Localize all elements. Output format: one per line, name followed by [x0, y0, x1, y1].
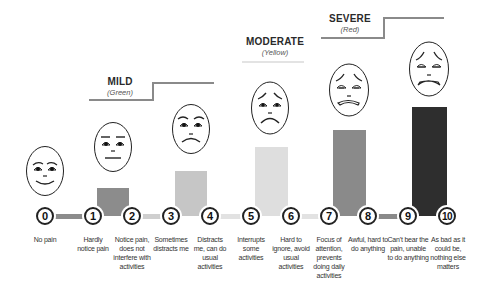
- mild-step-line-high: [152, 82, 214, 84]
- scale-point-9: 9: [399, 207, 417, 225]
- connector-8-9: [378, 214, 400, 219]
- scale-desc-8: Awful, hard to do anything: [348, 235, 388, 253]
- scale-point-7: 7: [320, 207, 338, 225]
- category-mild-subtitle: (Green): [100, 88, 140, 97]
- bar-severe-1: [333, 130, 366, 216]
- scale-desc-0: No pain: [23, 235, 67, 244]
- category-moderate-subtitle: (Yellow): [255, 48, 295, 57]
- mild-step-riser: [152, 82, 154, 101]
- severe-step-riser: [383, 17, 385, 39]
- mild-step-line-low: [89, 99, 154, 101]
- bar-severe-2: [412, 107, 447, 216]
- scale-point-1: 1: [84, 207, 102, 225]
- scale-point-5: 5: [242, 207, 260, 225]
- connector-4-5: [220, 214, 242, 219]
- scale-point-3: 3: [162, 207, 180, 225]
- scale-desc-10: As bad as it could be, nothing else matt…: [427, 235, 469, 271]
- category-severe-subtitle: (Red): [330, 25, 370, 34]
- face-very-sad-icon: [328, 62, 370, 118]
- category-severe-title: SEVERE: [325, 13, 375, 24]
- category-moderate-title: MODERATE: [240, 36, 310, 47]
- scale-point-6: 6: [282, 207, 300, 225]
- scale-desc-1: Hardly notice pain: [76, 235, 110, 253]
- connector-0-1: [55, 214, 85, 219]
- face-sad-icon: [250, 80, 290, 136]
- moderate-underline: [242, 61, 304, 63]
- severe-step-line-low: [321, 37, 385, 39]
- severe-step-line-high: [383, 17, 444, 19]
- face-crying-grimace-icon: [408, 40, 450, 98]
- bar-moderate: [255, 147, 288, 216]
- scale-desc-6: Hard to ignore, avoid usual activities: [271, 235, 311, 271]
- scale-point-2: 2: [123, 207, 141, 225]
- scale-desc-2: Notice pain, does not interfere with act…: [113, 235, 151, 271]
- scale-desc-9: Can't bear the pain, unable to do anythi…: [387, 235, 429, 262]
- scale-point-0: 0: [36, 207, 54, 225]
- scale-point-10: 10: [438, 207, 456, 225]
- scale-desc-4: Distracts me, can do usual activities: [193, 235, 227, 271]
- scale-desc-5: Interrupts some activities: [233, 235, 269, 262]
- scale-desc-3: Sometimes distracts me: [152, 235, 190, 253]
- face-neutral-icon: [93, 121, 133, 173]
- category-mild-title: MILD: [100, 76, 140, 87]
- scale-desc-7: Focus of attention, prevents doing daily…: [309, 235, 349, 280]
- face-frowning-icon: [171, 103, 211, 155]
- connector-2-3: [142, 214, 164, 219]
- scale-point-8: 8: [359, 207, 377, 225]
- face-smiling-icon: [25, 145, 65, 197]
- scale-point-4: 4: [201, 207, 219, 225]
